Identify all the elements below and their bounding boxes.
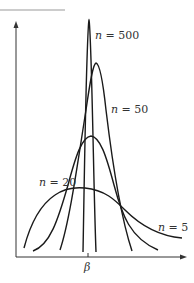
sampling-distribution-chart: n = 500 n = 50 n = 20 n = 5 β [0, 0, 194, 283]
label-n5: n = 5 [158, 221, 188, 234]
y-axis-arrow-icon [14, 21, 19, 28]
curve-n50 [60, 63, 132, 251]
label-n500: n = 500 [95, 29, 139, 42]
label-n20: n = 20 [39, 176, 76, 189]
x-axis-arrow-icon [180, 255, 187, 260]
x-axis [16, 253, 187, 260]
label-n50: n = 50 [111, 103, 148, 116]
label-beta: β [83, 261, 90, 274]
y-axis [14, 21, 19, 257]
